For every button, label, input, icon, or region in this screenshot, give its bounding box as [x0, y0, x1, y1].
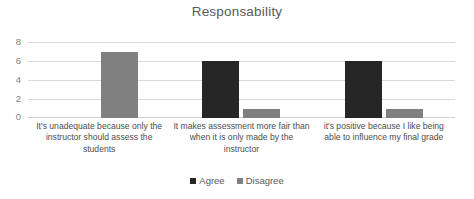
x-axis-category-labels: It's unadequate because only the instruc…: [28, 121, 455, 167]
bar-disagree[interactable]: [243, 109, 280, 119]
bar-agree[interactable]: [345, 61, 382, 118]
y-axis: 8 6 4 2 0: [0, 42, 26, 118]
bar-group: [170, 42, 312, 118]
legend-item-agree[interactable]: Agree: [190, 176, 224, 186]
category-label: it's positive because I like being able …: [313, 121, 455, 167]
legend-swatch-agree-icon: [190, 178, 196, 184]
legend-label-agree: Agree: [199, 176, 224, 186]
legend-item-disagree[interactable]: Disagree: [237, 176, 284, 186]
bar-group: [28, 42, 170, 118]
y-tick-label-0: 0: [16, 112, 21, 122]
bar-disagree[interactable]: [386, 109, 423, 119]
y-tick-label-4: 4: [16, 75, 21, 85]
y-tick-label-2: 2: [16, 94, 21, 104]
legend-swatch-disagree-icon: [237, 178, 243, 184]
bar-group: [313, 42, 455, 118]
y-tick-label-6: 6: [16, 56, 21, 66]
bar-disagree[interactable]: [101, 52, 138, 119]
category-label: It makes assessment more fair than when …: [170, 121, 312, 167]
y-tick-label-8: 8: [16, 37, 21, 47]
category-label: It's unadequate because only the instruc…: [28, 121, 170, 167]
bar-chart: Responsability 8 6 4 2 0 It's unadequate…: [0, 0, 474, 199]
legend-label-disagree: Disagree: [246, 176, 284, 186]
bar-agree[interactable]: [202, 61, 239, 118]
chart-legend: Agree Disagree: [0, 176, 474, 186]
bars-layer: [28, 42, 455, 118]
chart-title: Responsability: [0, 4, 474, 19]
